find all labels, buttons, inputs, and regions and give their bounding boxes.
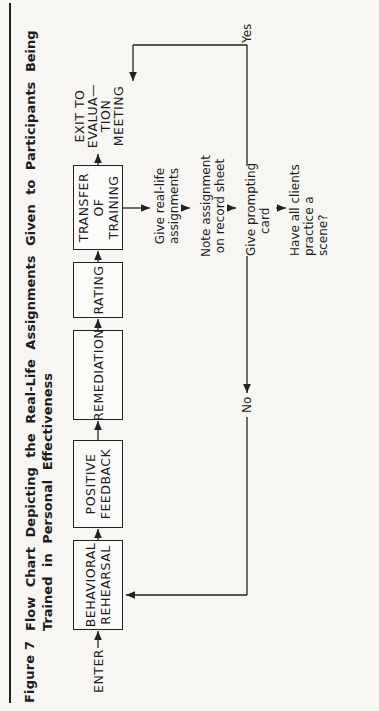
step-text: Give real-life — [153, 151, 167, 261]
figure-page: Figure 7 Flow Chart Depicting the Real-L… — [0, 0, 379, 711]
enter-label: ENTER — [91, 649, 106, 693]
decision-all-clients-practiced: Have all clients practice a scene? — [288, 156, 330, 256]
box-text: TRAINING — [106, 173, 121, 242]
connector-lines — [0, 0, 379, 711]
remediation-box: REMEDIATION — [73, 330, 123, 420]
exit-text: MEETING — [112, 81, 125, 151]
box-text: POSITIVE — [83, 449, 98, 519]
box-text: OF — [91, 173, 106, 242]
box-text: BEHAVIORAL — [83, 543, 98, 627]
box-text: FEEDBACK — [98, 449, 113, 519]
step-text: assignments — [167, 151, 181, 261]
box-text: REMEDIATION — [91, 329, 106, 421]
no-label: No — [240, 397, 254, 413]
positive-feedback-box: POSITIVEFEEDBACK — [73, 440, 123, 528]
step-text: card — [258, 156, 272, 256]
step-text: on record sheet — [213, 151, 227, 261]
step-prompting-card: Give prompting card — [244, 156, 272, 256]
box-text: REHEARSAL — [98, 543, 113, 627]
box-text: RATING — [91, 265, 106, 314]
decision-text: Have all clients — [288, 156, 302, 256]
exit-label: EXIT TO EVALUA— TION MEETING — [73, 81, 125, 151]
behavioral-rehearsal-box: BEHAVIORALREHEARSAL — [73, 540, 123, 630]
box-text: TRANSFER — [76, 173, 91, 242]
step-text: Give prompting — [244, 156, 258, 256]
yes-label: Yes — [240, 24, 254, 43]
step-text: Note assignment — [199, 151, 213, 261]
decision-text: practice a scene? — [302, 156, 330, 256]
rating-box: RATING — [73, 262, 123, 318]
step-give-assignments: Give real-life assignments — [153, 151, 181, 261]
transfer-of-training-box: TRANSFEROFTRAINING — [73, 165, 123, 250]
step-note-assignment: Note assignment on record sheet — [199, 151, 227, 261]
